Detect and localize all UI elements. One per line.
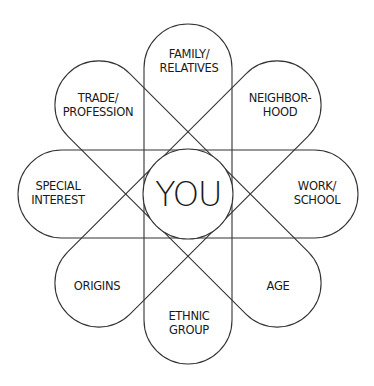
petal-family: FAMILY/RELATIVES bbox=[159, 47, 218, 75]
petal-work: WORK/SCHOOL bbox=[294, 179, 342, 207]
petal-ethnic: ETHNICGROUP bbox=[168, 309, 209, 337]
petal-trade: TRADE/PROFESSION bbox=[63, 91, 134, 119]
petal-neighborhood: NEIGHBOR-HOOD bbox=[249, 91, 312, 119]
identity-diagram: YOU FAMILY/RELATIVES NEIGHBOR-HOOD WORK/… bbox=[0, 0, 374, 386]
petal-origins: ORIGINS bbox=[74, 279, 121, 293]
center-label: YOU bbox=[155, 174, 221, 214]
petal-age: AGE bbox=[267, 279, 290, 293]
petal-special: SPECIALINTEREST bbox=[31, 179, 86, 207]
